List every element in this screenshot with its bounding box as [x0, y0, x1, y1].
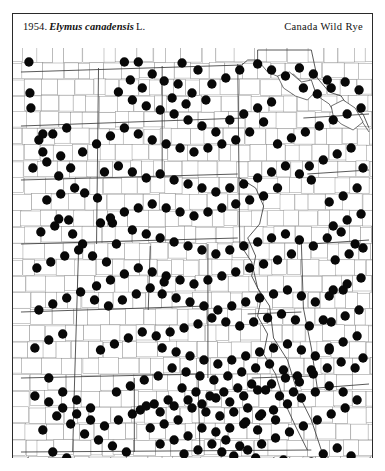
occurrence-dot: [342, 215, 351, 224]
occurrence-dot: [183, 241, 192, 250]
occurrence-dot: [56, 189, 65, 198]
occurrence-dot: [207, 439, 216, 448]
occurrence-dot: [120, 57, 129, 66]
occurrence-dot: [146, 423, 155, 432]
occurrence-dot: [219, 387, 228, 396]
occurrence-dot: [169, 401, 178, 410]
occurrence-dot: [259, 117, 268, 126]
occurrence-dot: [25, 88, 34, 97]
occurrence-dot: [239, 391, 248, 400]
occurrence-dot: [255, 293, 264, 302]
occurrence-dot: [48, 447, 57, 456]
occurrence-dot: [193, 445, 202, 454]
occurrence-dot: [169, 175, 178, 184]
occurrence-dot: [104, 301, 113, 310]
occurrence-dot: [203, 143, 212, 152]
occurrence-dot: [221, 435, 230, 444]
occurrence-dot: [267, 379, 276, 388]
occurrence-dot: [301, 127, 310, 136]
occurrence-dot: [269, 343, 278, 352]
occurrence-dot: [305, 321, 314, 330]
occurrence-dot: [283, 339, 292, 348]
occurrence-dot: [46, 257, 55, 266]
occurrence-dot: [203, 275, 212, 284]
occurrence-dot: [305, 161, 314, 170]
occurrence-dot: [271, 433, 280, 442]
occurrence-dot: [42, 195, 51, 204]
occurrence-dot: [58, 403, 67, 412]
occurrence-dot: [329, 285, 338, 294]
occurrence-dot: [159, 76, 168, 85]
occurrence-dot: [156, 439, 165, 448]
occurrence-dot: [32, 263, 41, 272]
occurrence-dot: [227, 301, 236, 310]
occurrence-dot: [227, 355, 236, 364]
occurrence-dot: [36, 227, 45, 236]
occurrence-dot: [295, 235, 304, 244]
occurrence-dot: [30, 343, 39, 352]
occurrence-dot: [169, 237, 178, 246]
occurrence-dot: [92, 281, 101, 290]
occurrence-dot: [269, 405, 278, 414]
occurrence-dot: [233, 383, 242, 392]
occurrence-dot: [183, 179, 192, 188]
occurrence-dot: [239, 241, 248, 250]
occurrence-dot: [74, 245, 83, 254]
occurrence-dot: [197, 183, 206, 192]
occurrence-dot: [297, 345, 306, 354]
occurrence-dot: [169, 109, 178, 118]
occurrence-dot: [167, 93, 176, 102]
occurrence-dot: [253, 237, 262, 246]
occurrence-dot: [207, 313, 216, 322]
occurrence-dot: [66, 419, 75, 428]
occurrence-dot: [265, 359, 274, 368]
occurrence-dot: [243, 445, 252, 454]
occurrence-dot: [253, 385, 262, 394]
occurrence-dot: [329, 115, 338, 124]
occurrence-dot: [285, 427, 294, 436]
occurrence-dot: [231, 135, 240, 144]
occurrence-dot: [157, 343, 166, 352]
occurrence-dot: [175, 207, 184, 216]
occurrence-dot: [193, 65, 202, 74]
occurrence-dot: [267, 97, 276, 106]
occurrence-dot: [68, 229, 77, 238]
occurrence-dot: [161, 139, 170, 148]
occurrence-dot: [38, 147, 47, 156]
occurrence-dot: [249, 317, 258, 326]
occurrence-dot: [352, 395, 361, 404]
occurrence-dot: [110, 339, 119, 348]
occurrence-dot: [56, 151, 65, 160]
occurrence-dot: [229, 407, 238, 416]
occurrence-dot: [257, 439, 266, 448]
occurrence-dot: [309, 369, 318, 378]
occurrence-dot: [207, 79, 216, 88]
occurrence-dot: [356, 273, 365, 282]
occurrence-dot: [323, 363, 332, 372]
occurrence-dot: [66, 163, 75, 172]
occurrence-dot: [235, 441, 244, 450]
occurrence-dot: [273, 139, 282, 148]
occurrence-dot: [283, 285, 292, 294]
occurrence-dot: [134, 129, 143, 138]
occurrence-dot: [191, 387, 200, 396]
occurrence-dot: [239, 179, 248, 188]
occurrence-dot: [352, 331, 361, 340]
occurrence-dot: [239, 109, 248, 118]
occurrence-dot: [223, 371, 232, 380]
common-name-label: Canada Wild Rye: [284, 21, 363, 32]
occurrence-dot: [142, 173, 151, 182]
occurrence-dot: [156, 169, 165, 178]
occurrence-dot: [331, 255, 340, 264]
occurrence-dot: [197, 399, 206, 408]
occurrence-dot: [173, 79, 182, 88]
occurrence-dot: [100, 421, 109, 430]
occurrence-dot: [78, 147, 87, 156]
occurrence-dot: [44, 397, 53, 406]
occurrence-dot: [217, 139, 226, 148]
occurrence-dot: [62, 293, 71, 302]
occurrence-dot: [211, 393, 220, 402]
occurrence-dot: [114, 161, 123, 170]
occurrence-dot: [271, 415, 280, 424]
occurrence-dot: [327, 317, 336, 326]
